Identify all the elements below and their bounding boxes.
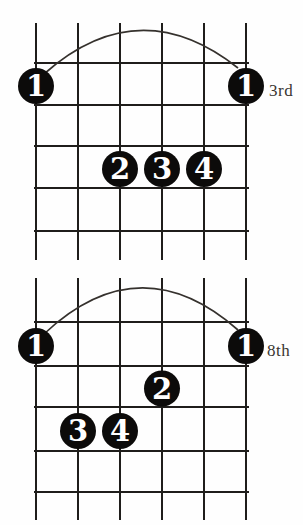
finger-number: 2 <box>110 152 130 186</box>
finger-number: 1 <box>236 69 256 103</box>
scanned-chord-chart-page: 11234 11234 3rd 8th <box>0 0 303 525</box>
finger-number: 1 <box>236 329 256 363</box>
chord-diagrams-canvas: 11234 11234 3rd 8th <box>0 0 303 525</box>
finger-number: 3 <box>68 414 88 448</box>
fret-position-label-top: 3rd <box>269 81 293 100</box>
finger-dot-1: 1 <box>18 68 54 104</box>
finger-number: 4 <box>110 414 130 448</box>
finger-number: 1 <box>26 329 46 363</box>
barre-arc <box>44 288 238 334</box>
finger-dot-4: 4 <box>102 413 138 449</box>
finger-number: 1 <box>26 69 46 103</box>
fret-position-label-bottom: 8th <box>267 341 290 360</box>
chord-diagram-8th-position: 11234 <box>18 278 264 520</box>
finger-dot-4: 4 <box>186 151 222 187</box>
finger-dot-2: 2 <box>144 371 180 407</box>
chord-diagram-3rd-position: 11234 <box>18 23 264 260</box>
barre-arc <box>44 30 238 74</box>
finger-number: 4 <box>194 152 214 186</box>
finger-dot-1: 1 <box>18 328 54 364</box>
finger-dot-2: 2 <box>102 151 138 187</box>
finger-dot-1: 1 <box>228 328 264 364</box>
finger-number: 2 <box>152 372 172 406</box>
finger-dot-3: 3 <box>144 151 180 187</box>
finger-dot-3: 3 <box>60 413 96 449</box>
finger-dot-1: 1 <box>228 68 264 104</box>
finger-number: 3 <box>152 152 172 186</box>
